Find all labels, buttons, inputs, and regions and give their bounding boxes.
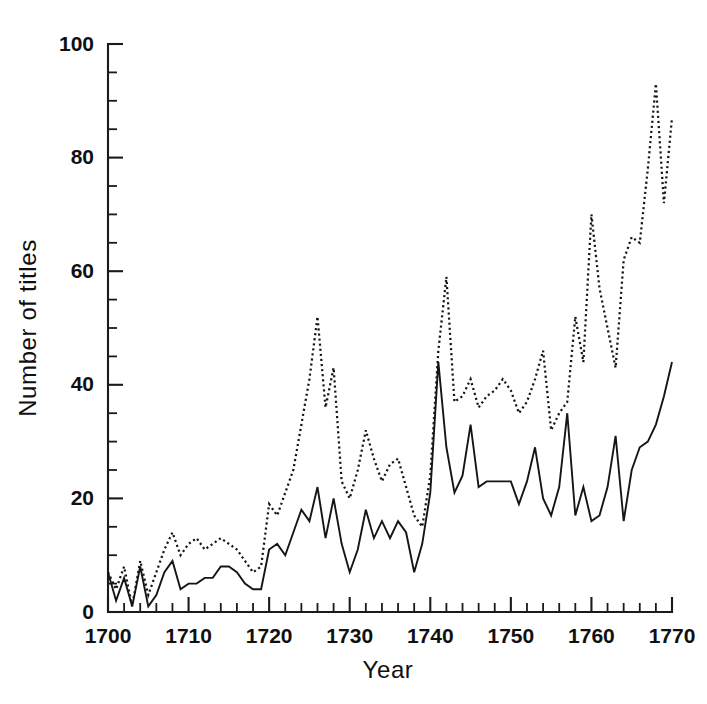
- series-group: [108, 84, 672, 607]
- x-tick-label: 1720: [246, 624, 293, 647]
- x-tick-label: 1760: [568, 624, 615, 647]
- y-axis-ticks: [108, 44, 123, 612]
- x-axis-title: Year: [363, 656, 414, 683]
- x-tick-label: 1710: [165, 624, 212, 647]
- x-tick-label: 1730: [326, 624, 373, 647]
- y-tick-label: 40: [71, 372, 94, 395]
- series-line-dotted: [108, 84, 672, 607]
- x-tick-label: 1750: [487, 624, 534, 647]
- chart-container: 020406080100 170017101720173017401750176…: [0, 0, 707, 704]
- y-tick-label: 80: [71, 145, 94, 168]
- y-tick-label: 20: [71, 486, 94, 509]
- y-tick-label: 0: [82, 600, 94, 623]
- axis-frame: [108, 44, 672, 612]
- y-axis-title: Number of titles: [14, 239, 41, 417]
- axes-group: [108, 44, 672, 612]
- x-tick-label: 1770: [649, 624, 696, 647]
- x-axis-tick-labels: 17001710172017301740175017601770: [85, 624, 696, 647]
- series-line-solid: [108, 362, 672, 606]
- x-axis-ticks: [108, 597, 672, 612]
- y-tick-label: 100: [59, 32, 94, 55]
- line-chart-svg: 020406080100 170017101720173017401750176…: [0, 0, 707, 704]
- x-tick-label: 1740: [407, 624, 454, 647]
- y-axis-tick-labels: 020406080100: [59, 32, 94, 623]
- y-tick-label: 60: [71, 259, 94, 282]
- x-tick-label: 1700: [85, 624, 132, 647]
